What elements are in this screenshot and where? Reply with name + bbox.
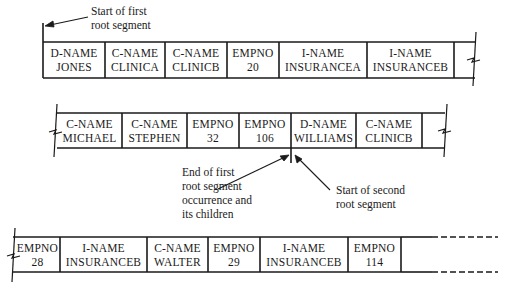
segment-cell: I-NAME INSURANCEA [279, 42, 367, 78]
segment-cell: I-NAME INSURANCEB [60, 237, 147, 272]
field-name: EMPNO [244, 117, 285, 131]
field-name: C-NAME [131, 117, 178, 131]
annotation-start-first-root: Start of first root segment [91, 4, 151, 32]
field-value: INSURANCEB [66, 255, 141, 269]
segment-cell: C-NAME CLINICA [105, 42, 165, 78]
annotation-line: Start of second [336, 183, 405, 197]
field-name: C-NAME [366, 117, 413, 131]
field-value: 29 [228, 255, 240, 269]
segment-cell: C-NAME CLINICB [356, 113, 422, 148]
segment-cell: EMPNO 114 [348, 237, 401, 272]
field-name: D-NAME [50, 46, 97, 60]
arrow-start-second-root [298, 158, 330, 190]
segment-cell: I-NAME INSURANCEB [260, 237, 348, 272]
field-value: 32 [207, 131, 219, 145]
segment-cell: EMPNO 106 [239, 113, 291, 148]
field-value: 114 [366, 255, 383, 269]
field-name: I-NAME [389, 46, 432, 60]
field-value: CLINICA [111, 60, 159, 74]
field-name: C-NAME [112, 46, 159, 60]
field-value: CLINICB [172, 60, 219, 74]
annotation-line: root segment [336, 197, 405, 211]
annotation-line: root segment [182, 179, 252, 193]
field-value: 28 [32, 255, 44, 269]
field-name: C-NAME [173, 46, 220, 60]
break-icon [438, 104, 451, 157]
field-value: CLINICB [365, 131, 412, 145]
field-value: INSURANCEB [266, 255, 341, 269]
segment-cell: C-NAME STEPHEN [122, 113, 187, 148]
segment-cell: EMPNO 20 [227, 42, 279, 78]
annotation-line: Start of first [91, 4, 151, 18]
field-name: C-NAME [154, 241, 201, 255]
segment-cell: D-NAME JONES [43, 42, 105, 78]
annotation-end-first-root: End of first root segment occurrence and… [182, 165, 252, 221]
annotation-line: root segment [91, 18, 151, 32]
segment-cell: I-NAME INSURANCEB [367, 42, 454, 78]
field-name: EMPNO [17, 241, 58, 255]
field-value: 20 [247, 60, 259, 74]
field-value: INSURANCEB [373, 60, 448, 74]
field-name: C-NAME [66, 117, 113, 131]
field-value: WILLIAMS [294, 131, 353, 145]
field-value: 106 [256, 131, 274, 145]
field-name: D-NAME [300, 117, 347, 131]
segment-cell: EMPNO 32 [187, 113, 239, 148]
annotation-line: its children [182, 207, 252, 221]
field-value: MICHAEL [63, 131, 117, 145]
field-name: EMPNO [192, 117, 233, 131]
annotation-start-second-root: Start of second root segment [336, 183, 405, 211]
segment-cell: EMPNO 28 [15, 237, 60, 272]
field-name: I-NAME [82, 241, 125, 255]
segment-cell: C-NAME MICHAEL [57, 113, 122, 148]
field-name: EMPNO [213, 241, 254, 255]
annotation-line: End of first [182, 165, 252, 179]
annotation-line: occurrence and [182, 193, 252, 207]
segment-cell: C-NAME WALTER [147, 237, 208, 272]
field-value: WALTER [154, 255, 201, 269]
segment-cell: D-NAME WILLIAMS [291, 113, 356, 148]
arrow-start-first-root [50, 17, 88, 25]
segment-cell: C-NAME CLINICB [165, 42, 227, 78]
field-name: EMPNO [354, 241, 395, 255]
field-value: STEPHEN [129, 131, 181, 145]
field-name: I-NAME [283, 241, 326, 255]
field-name: I-NAME [302, 46, 345, 60]
field-name: EMPNO [232, 46, 273, 60]
field-value: INSURANCEA [285, 60, 361, 74]
field-value: JONES [56, 60, 92, 74]
segment-cell: EMPNO 29 [208, 237, 260, 272]
